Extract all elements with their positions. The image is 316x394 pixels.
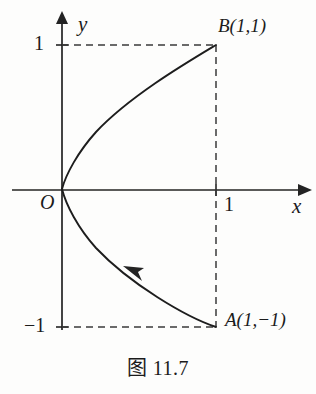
- origin-label: O: [40, 192, 54, 212]
- curve-upper-branch: [62, 45, 216, 189]
- y-axis-arrowhead-icon: [56, 11, 68, 24]
- x-axis-label: x: [292, 196, 301, 217]
- curve-direction-arrowhead-icon: [123, 266, 144, 281]
- point-label-a: A(1,−1): [225, 310, 286, 329]
- point-label-b: B(1,1): [218, 16, 266, 35]
- y-tick-label-negative-one: −1: [24, 315, 45, 335]
- figure-caption: 图 11.7: [0, 352, 316, 381]
- x-tick-label-one: 1: [224, 194, 234, 214]
- y-tick-label-one: 1: [34, 33, 44, 53]
- y-axis-label: y: [78, 14, 87, 35]
- curve-lower-branch: [62, 189, 216, 327]
- figure-page: y x O 1 −1 1 B(1,1) A(1,−1) 图 11.7: [0, 0, 316, 394]
